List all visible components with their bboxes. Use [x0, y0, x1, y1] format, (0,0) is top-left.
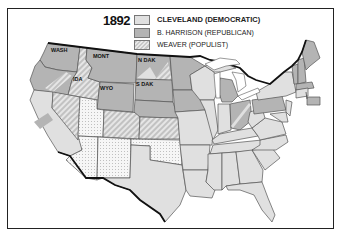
state-colorado [103, 110, 140, 139]
label-wash: WASH [51, 47, 68, 53]
state-michigan [218, 78, 238, 102]
label-sdak: S DAK [136, 81, 153, 87]
us-electoral-map: WASH MONT IDA WYO N DAK S DAK [0, 0, 341, 234]
label-mont: MONT [93, 53, 110, 59]
label-ndak: N DAK [138, 57, 155, 63]
label-wyo: WYO [100, 85, 114, 91]
state-arkansas [180, 145, 210, 170]
state-new-york [256, 72, 296, 100]
state-mississippi [206, 153, 222, 190]
state-nebraska [134, 100, 178, 118]
territory-new-mexico [97, 137, 131, 180]
label-ida: IDA [73, 76, 83, 82]
state-rhode-island-inset [307, 97, 320, 105]
state-indiana [218, 104, 231, 134]
state-new-jersey [286, 100, 292, 116]
state-florida [226, 182, 275, 222]
state-kansas [139, 117, 180, 139]
